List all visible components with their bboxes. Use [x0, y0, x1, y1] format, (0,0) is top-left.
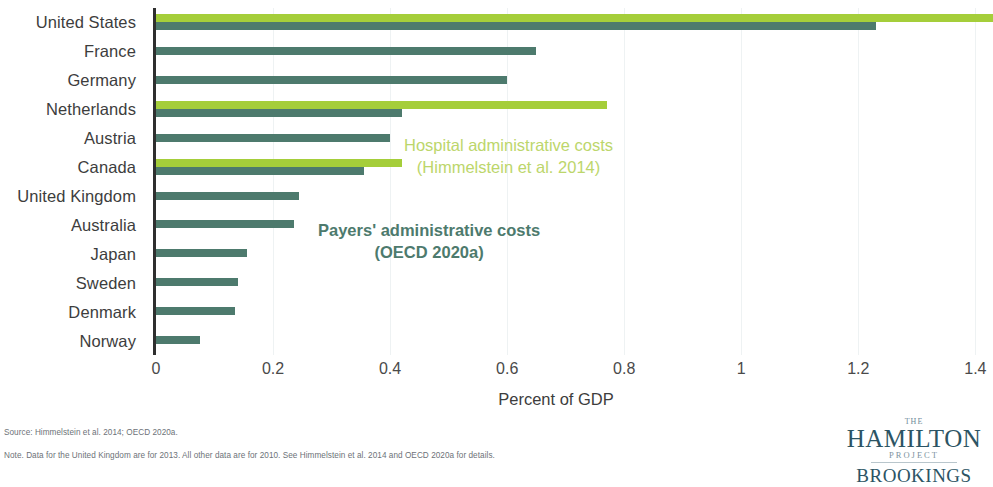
bar-row [156, 268, 990, 297]
bar-payers-administrative-costs [156, 22, 876, 30]
legend-hospital-line2: (Himmelstein et al. 2014) [404, 156, 613, 178]
x-axis-title: Percent of GDP [0, 390, 990, 409]
bar-row [156, 66, 990, 95]
bar-payers-administrative-costs [156, 220, 294, 228]
x-axis-ticks: 00.20.40.60.811.21.4 [156, 360, 990, 384]
bar-row [156, 37, 990, 66]
hamilton-project-brookings-logo: THE HAMILTON PROJECT BROOKINGS [840, 418, 988, 485]
x-axis-tick-label: 0 [152, 360, 161, 378]
bar-row [156, 297, 990, 326]
bar-payers-administrative-costs [156, 192, 299, 200]
bar-payers-administrative-costs [156, 109, 402, 117]
y-axis-labels: United StatesFranceGermanyNetherlandsAus… [0, 8, 146, 355]
legend-hospital-line1: Hospital administrative costs [404, 136, 613, 154]
plot-area [156, 8, 990, 355]
data-note: Note. Data for the United Kingdom are fo… [4, 452, 495, 460]
y-axis-label: Denmark [0, 304, 136, 321]
bar-row [156, 182, 990, 211]
x-axis-tick-label: 0.4 [379, 360, 401, 378]
bar-payers-administrative-costs [156, 167, 364, 175]
legend-hospital-administrative-costs: Hospital administrative costs (Himmelste… [404, 134, 613, 179]
y-axis-label: United States [0, 14, 136, 31]
legend-payers-line1: Payers' administrative costs [318, 221, 540, 239]
x-axis-tick-label: 0.2 [262, 360, 284, 378]
y-axis-label: Norway [0, 333, 136, 350]
y-axis-label: Austria [0, 130, 136, 147]
bar-payers-administrative-costs [156, 134, 390, 142]
y-axis-label: United Kingdom [0, 188, 136, 205]
bar-payers-administrative-costs [156, 278, 238, 286]
bar-row [156, 326, 990, 355]
bar-hospital-administrative-costs [156, 101, 607, 109]
source-note: Source: Himmelstein et al. 2014; OECD 20… [4, 429, 178, 437]
bar-payers-administrative-costs [156, 307, 235, 315]
bar-row [156, 239, 990, 268]
legend-payers-administrative-costs: Payers' administrative costs (OECD 2020a… [318, 219, 540, 264]
bar-payers-administrative-costs [156, 47, 536, 55]
x-axis-tick-label: 0.6 [496, 360, 518, 378]
x-axis-tick-label: 0.8 [613, 360, 635, 378]
legend-payers-line2: (OECD 2020a) [318, 241, 540, 263]
x-axis-tick-label: 1.2 [847, 360, 869, 378]
bar-payers-administrative-costs [156, 76, 507, 84]
bar-payers-administrative-costs [156, 249, 247, 257]
y-axis-label: Australia [0, 217, 136, 234]
y-axis-label: Japan [0, 246, 136, 263]
y-axis-label: Sweden [0, 275, 136, 292]
y-axis-label: France [0, 43, 136, 60]
x-axis-title-text: Percent of GDP [498, 390, 614, 408]
logo-brookings-text: BROOKINGS [840, 466, 988, 485]
x-axis-tick-label: 1 [737, 360, 746, 378]
bar-row [156, 95, 990, 124]
x-axis-tick-label: 1.4 [964, 360, 986, 378]
logo-project-text: PROJECT [840, 451, 988, 460]
y-axis-label: Netherlands [0, 101, 136, 118]
logo-divider [871, 462, 957, 463]
bar-hospital-administrative-costs [156, 14, 993, 22]
bar-row [156, 210, 990, 239]
y-axis-label: Germany [0, 72, 136, 89]
y-axis-label: Canada [0, 159, 136, 176]
logo-hamilton-text: HAMILTON [840, 426, 988, 452]
bar-hospital-administrative-costs [156, 159, 402, 167]
bar-row [156, 8, 990, 37]
bar-payers-administrative-costs [156, 336, 200, 344]
